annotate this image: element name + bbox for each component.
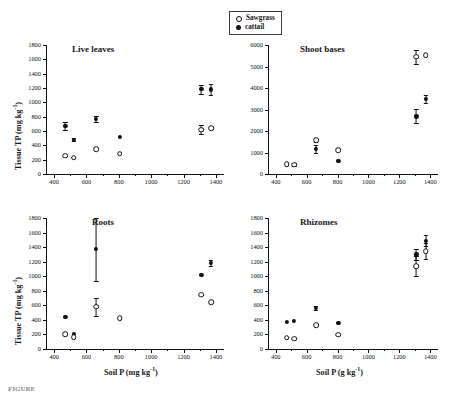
x-minor-tick: [167, 174, 168, 176]
x-tick: [338, 349, 339, 353]
x-tick: [399, 174, 400, 178]
legend-item-sawgrass: Sawgrass: [234, 14, 275, 23]
x-tick: [151, 174, 152, 178]
y-tick-label: 200: [6, 156, 41, 163]
x-tick-label: 400: [264, 178, 288, 185]
data-point-cattail: [336, 159, 340, 163]
x-tick: [86, 174, 87, 178]
x-tick: [430, 174, 431, 178]
x-tick-label: 800: [107, 178, 131, 185]
error-bar-cap: [199, 94, 203, 95]
data-point-sawgrass: [117, 315, 123, 321]
error-bar-cap: [94, 281, 98, 282]
y-tick: [265, 110, 269, 111]
y-tick-label: 0: [228, 170, 263, 177]
data-point-cattail: [284, 320, 288, 324]
data-point-cattail: [209, 261, 213, 265]
data-point-sawgrass: [208, 125, 214, 131]
chart-panel-rhizomes: 0200400600800100012001400160018004006008…: [268, 218, 438, 349]
data-point-cattail: [94, 117, 98, 121]
x-tick-label: 1000: [139, 178, 163, 185]
y-tick: [265, 320, 269, 321]
y-tick: [43, 305, 47, 306]
y-tick: [265, 262, 269, 263]
y-tick: [43, 320, 47, 321]
y-tick: [265, 349, 269, 350]
x-tick: [399, 349, 400, 353]
y-tick-label: 0: [6, 170, 41, 177]
y-tick: [265, 218, 269, 219]
x-minor-tick: [322, 174, 323, 176]
data-point-cattail: [63, 124, 67, 128]
y-tick-label: 200: [6, 330, 41, 337]
error-bar-cap: [423, 246, 427, 247]
x-tick: [430, 349, 431, 353]
x-axis-title-left-text: Soil P (mg kg: [104, 368, 150, 377]
panel-title: Shoot bases: [300, 44, 345, 54]
y-tick: [265, 305, 269, 306]
y-tick: [265, 291, 269, 292]
x-tick-label: 800: [326, 178, 350, 185]
y-tick: [43, 88, 47, 89]
y-tick: [43, 45, 47, 46]
x-tick-label: 1200: [387, 178, 411, 185]
data-point-sawgrass: [291, 336, 297, 342]
data-point-cattail: [292, 319, 296, 323]
y-tick: [43, 247, 47, 248]
y-tick: [265, 67, 269, 68]
x-tick-label: 1000: [356, 178, 380, 185]
error-bar-cap: [209, 95, 213, 96]
y-tick-label: 600: [228, 301, 263, 308]
panel-title: Live leaves: [72, 44, 114, 54]
data-point-sawgrass: [284, 335, 290, 341]
y-tick: [265, 247, 269, 248]
data-point-sawgrass: [63, 332, 69, 338]
figure-panel-grid: Sawgrass cattail Tissue TP (mg kg-1) Tis…: [0, 0, 449, 394]
error-bar-cap: [414, 109, 418, 110]
x-tick: [216, 174, 217, 178]
x-minor-tick: [353, 174, 354, 176]
y-tick: [43, 262, 47, 263]
y-tick-label: 3000: [228, 106, 263, 113]
y-tick: [265, 88, 269, 89]
x-tick: [216, 349, 217, 353]
y-tick-label: 1000: [228, 149, 263, 156]
error-bar-cap: [94, 316, 98, 317]
y-tick-label: 800: [6, 287, 41, 294]
y-tick: [43, 74, 47, 75]
chart-panel-live-leaves: 0200400600800100012001400160018004006008…: [46, 45, 224, 174]
x-tick: [54, 349, 55, 353]
error-bar-cap: [414, 276, 418, 277]
y-tick-label: 4000: [228, 84, 263, 91]
data-point-cattail: [336, 321, 340, 325]
chart-panel-roots: 0200400600800100012001400160018004006008…: [46, 218, 224, 349]
error-bar-cap: [314, 310, 318, 311]
x-tick-label: 400: [42, 353, 66, 360]
x-minor-tick: [103, 349, 104, 351]
x-tick-label: 600: [295, 353, 319, 360]
legend: Sawgrass cattail: [229, 11, 282, 35]
data-point-cattail: [414, 114, 418, 118]
y-tick-label: 1000: [6, 272, 41, 279]
y-tick-label: 0: [6, 345, 41, 352]
panel-title: Rhizomes: [300, 217, 338, 227]
data-point-sawgrass: [117, 151, 123, 157]
y-tick-label: 800: [228, 287, 263, 294]
x-tick-label: 1400: [418, 353, 442, 360]
x-axis-title-right: Soil P (g kg-1): [316, 366, 363, 377]
y-tick-label: 1600: [6, 55, 41, 62]
x-minor-tick: [200, 349, 201, 351]
x-tick: [151, 349, 152, 353]
x-minor-tick: [135, 174, 136, 176]
x-tick: [276, 174, 277, 178]
y-tick-label: 200: [228, 330, 263, 337]
y-tick-label: 1800: [228, 214, 263, 221]
x-minor-tick: [353, 349, 354, 351]
error-bar-cap: [414, 260, 418, 261]
error-bar-cap: [423, 95, 427, 96]
data-point-sawgrass: [414, 263, 420, 269]
x-minor-tick: [135, 349, 136, 351]
legend-item-cattail: cattail: [234, 23, 275, 32]
y-tick-label: 400: [6, 316, 41, 323]
figure-caption: FIGURE: [8, 385, 35, 393]
